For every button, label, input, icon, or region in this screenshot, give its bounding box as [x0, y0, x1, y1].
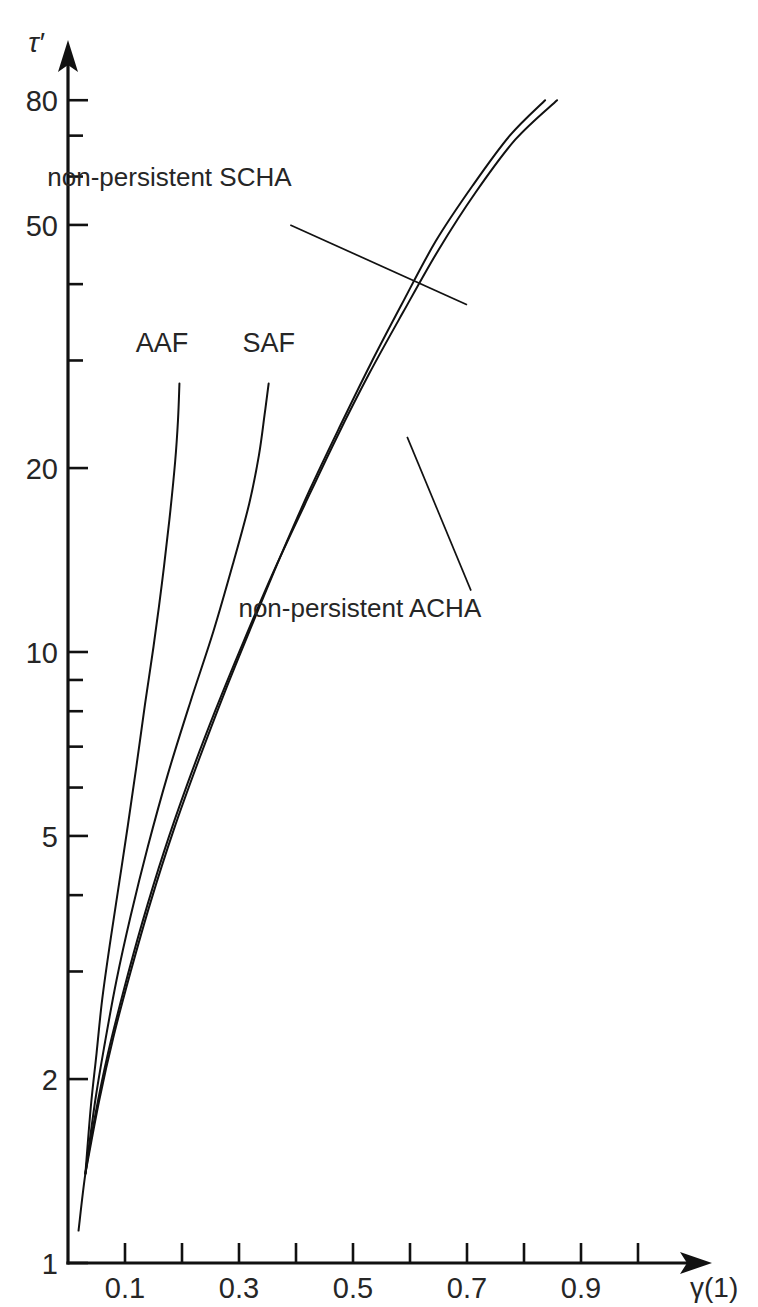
scha-callout-text: non-persistent SCHA	[47, 162, 292, 192]
curve-saf	[85, 384, 268, 1174]
x-tick-labels: 0.10.30.50.70.9	[105, 1272, 601, 1304]
callout-annotations: non-persistent SCHAnon-persistent ACHA	[47, 162, 482, 624]
y-tick-marks	[68, 100, 88, 1263]
curve-label-saf: SAF	[242, 328, 295, 358]
data-curves	[79, 100, 558, 1230]
x-tick-label: 0.1	[105, 1272, 145, 1304]
y-axis-group: τ′ 12510205080	[26, 27, 88, 1280]
acha-callout-text: non-persistent ACHA	[238, 593, 481, 623]
x-axis-group: γ(1) 0.10.30.50.70.9	[68, 1243, 738, 1304]
y-tick-label: 10	[26, 637, 58, 669]
x-tick-label: 0.5	[333, 1272, 373, 1304]
x-tick-marks	[125, 1243, 638, 1263]
y-tick-label: 20	[26, 453, 58, 485]
scha-callout-leader-line	[290, 225, 467, 305]
x-tick-label: 0.9	[561, 1272, 601, 1304]
y-axis-title: τ′	[28, 27, 45, 58]
x-tick-label: 0.7	[447, 1272, 487, 1304]
curve-aaf	[85, 384, 179, 1174]
series-inline-labels: AAFSAF	[136, 328, 295, 358]
y-tick-label: 2	[42, 1064, 58, 1096]
acha-callout-leader-line	[407, 437, 471, 591]
y-tick-label: 80	[26, 85, 58, 117]
y-tick-label: 5	[42, 821, 58, 853]
y-tick-labels: 12510205080	[26, 85, 58, 1280]
figure-log-plot: τ′ 12510205080 γ(1) 0.10.30.50.70.9 AAFS…	[0, 0, 758, 1307]
x-tick-label: 0.3	[219, 1272, 259, 1304]
x-axis-title: γ(1)	[690, 1272, 738, 1303]
y-tick-label: 1	[42, 1248, 58, 1280]
y-tick-label: 50	[26, 210, 58, 242]
chart-canvas: τ′ 12510205080 γ(1) 0.10.30.50.70.9 AAFS…	[0, 0, 758, 1307]
curve-label-aaf: AAF	[136, 328, 189, 358]
